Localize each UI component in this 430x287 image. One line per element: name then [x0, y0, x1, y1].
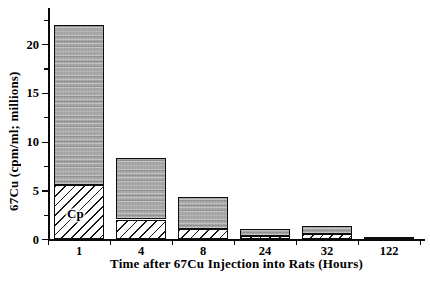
y-axis-major-tick [42, 44, 48, 45]
y-axis-tick-label: 20 [13, 38, 39, 52]
bar-8-stippled-segment [178, 197, 228, 229]
y-axis-tick-label: 0 [13, 233, 39, 247]
y-axis-minor-tick [44, 68, 48, 69]
x-axis-tick [420, 241, 421, 245]
bar-chart-figure: 051015201482432122Cp 67Cu (cpm/ml; milli… [0, 0, 430, 287]
bar-8-cp-segment [178, 229, 228, 239]
bar-1-stippled-segment [54, 25, 104, 186]
bar-24-cp-segment [240, 236, 290, 239]
y-axis-major-tick [42, 93, 48, 94]
bar-32-stippled-segment [302, 226, 352, 234]
x-axis-tick [110, 241, 111, 245]
x-axis-tick [296, 241, 297, 245]
x-axis-tick [358, 241, 359, 245]
y-axis-major-tick [42, 142, 48, 143]
y-axis-minor-tick [44, 20, 48, 21]
x-axis-title: Time after 67Cu Injection into Rats (Hou… [48, 256, 425, 272]
x-axis-tick [48, 241, 49, 245]
y-axis-minor-tick [44, 117, 48, 118]
y-axis-minor-tick [44, 166, 48, 167]
bar-4-stippled-segment [116, 158, 166, 219]
x-axis-tick [234, 241, 235, 245]
x-axis-tick [172, 241, 173, 245]
y-axis-title: 67Cu (cpm/ml; millions) [5, 58, 22, 224]
bar-122-cp-segment [364, 238, 414, 240]
cp-annotation: Cp [67, 206, 84, 222]
bar-24-stippled-segment [240, 229, 290, 236]
y-axis-major-tick [42, 190, 48, 191]
plot-area: 051015201482432122Cp [0, 0, 430, 287]
y-axis-minor-tick [44, 215, 48, 216]
y-axis-line [48, 8, 50, 241]
bar-4-cp-segment [116, 220, 166, 240]
bar-32-cp-segment [302, 234, 352, 239]
